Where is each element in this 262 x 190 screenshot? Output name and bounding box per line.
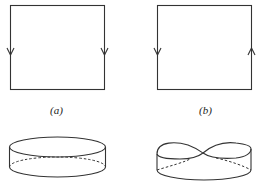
square-a: (a) xyxy=(7,6,108,118)
cylinder-top-ellipse xyxy=(10,137,106,157)
square-b-outline xyxy=(158,6,252,90)
mobius-top-strand-1 xyxy=(157,143,251,159)
topology-diagram: (a) (b) xyxy=(0,0,262,190)
mobius-bottom-edge xyxy=(157,170,251,180)
cylinder xyxy=(10,137,106,177)
square-a-outline xyxy=(11,6,105,90)
figure-label-b: (b) xyxy=(199,104,212,117)
square-b: (b) xyxy=(154,6,255,118)
cylinder-hidden-edge xyxy=(10,157,106,167)
mobius-band xyxy=(157,143,251,180)
mobius-hidden-right xyxy=(216,158,251,170)
mobius-hidden-left xyxy=(157,159,190,170)
figure-label-a: (a) xyxy=(50,104,63,117)
mobius-top-strand-2 xyxy=(157,143,251,159)
cylinder-bottom-edge xyxy=(10,167,106,177)
